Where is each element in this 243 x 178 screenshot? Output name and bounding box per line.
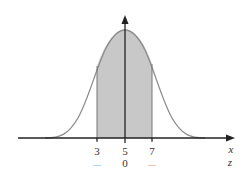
tick-label-7: 7 <box>149 145 155 157</box>
y-axis-arrow-icon <box>122 15 129 24</box>
z-axis-label: z <box>227 156 233 168</box>
z-label-5: 0 <box>122 157 128 169</box>
z-label-7: .... <box>148 159 156 168</box>
x-axis-arrow-icon <box>226 135 235 142</box>
tick-label-3: 3 <box>94 145 100 157</box>
x-axis-label: x <box>228 143 234 155</box>
z-label-3: .... <box>93 159 101 168</box>
tick-label-5: 5 <box>122 145 128 157</box>
normal-curve-diagram: 3 5 7 .... 0 .... x z <box>0 0 243 178</box>
